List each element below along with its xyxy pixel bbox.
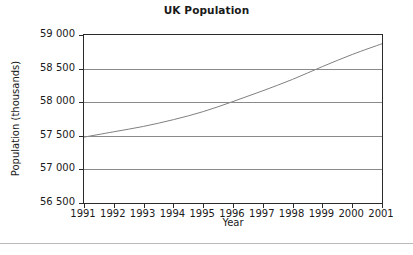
y-axis-tick-label: 58 500 [15,62,75,73]
y-axis-tick-label: 58 000 [15,95,75,106]
x-axis-tick-label: 1992 [98,208,128,219]
y-axis-tick-label: 56 500 [15,196,75,207]
chart-page: UK Population Population (thousands) Yea… [0,0,413,255]
x-axis-tick-label: 2000 [336,208,366,219]
x-axis-tick-label: 1994 [157,208,187,219]
line-series [84,35,382,203]
y-axis-title: Population (thousands) [8,28,24,208]
x-axis-tick-label: 1999 [306,208,336,219]
y-axis-tick [79,35,84,36]
x-axis-tick-label: 2001 [366,208,396,219]
y-axis-tick-label: 57 500 [15,129,75,140]
x-axis-tick-label: 1997 [247,208,277,219]
y-axis-tick [79,69,84,70]
x-axis-tick-label: 1993 [128,208,158,219]
plot-area [83,34,383,204]
x-axis-tick-label: 1996 [217,208,247,219]
y-axis-title-text: Population (thousands) [11,60,22,175]
y-axis-tick [79,102,84,103]
y-axis-tick [79,136,84,137]
x-axis-tick-label: 1995 [187,208,217,219]
y-axis-tick [79,169,84,170]
gridline-y [84,69,382,70]
x-axis-tick-label: 1991 [68,208,98,219]
page-title: UK Population [0,4,413,16]
gridline-y [84,136,382,137]
x-axis-tick-label: 1998 [277,208,307,219]
y-axis-tick-label: 57 000 [15,162,75,173]
gridline-y [84,102,382,103]
footer-divider [0,243,413,244]
y-axis-tick-label: 59 000 [15,28,75,39]
gridline-y [84,169,382,170]
series-line [84,44,382,137]
